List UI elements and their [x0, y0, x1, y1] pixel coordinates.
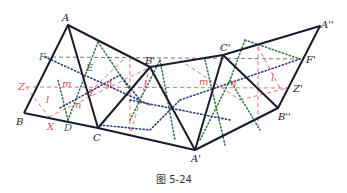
angle-n3: n — [230, 77, 236, 88]
label-C1: C' — [220, 42, 230, 53]
label-B2: B'' — [277, 111, 291, 122]
geometry-figure: A B C B' C' A'' F' Z' B'' A' F E D Z X Y… — [0, 0, 347, 193]
figure-caption: 图 5-24 — [156, 174, 192, 185]
dashed-black-lines — [45, 57, 300, 59]
label-F1: F' — [305, 54, 316, 65]
angle-l2: l — [144, 78, 147, 89]
angle-l3: l — [271, 72, 274, 83]
angle-m1: m — [62, 78, 71, 89]
angle-m2: m — [199, 76, 208, 87]
label-D: D — [63, 122, 72, 133]
angle-n2: n — [75, 99, 81, 110]
label-A2: A'' — [320, 19, 334, 30]
label-A1: A' — [190, 153, 201, 164]
label-B: B — [15, 116, 23, 127]
label-F: F — [38, 51, 47, 62]
label-Z: Z — [17, 81, 26, 92]
label-Z1: Z' — [292, 83, 303, 94]
label-C: C — [93, 132, 101, 143]
red-labels: Z X Y m n l n l m n l — [17, 72, 274, 132]
label-E: E — [85, 62, 94, 73]
label-A: A — [61, 12, 69, 23]
angle-n1: n — [106, 77, 112, 88]
label-B1: B' — [144, 55, 155, 66]
label-X: X — [46, 121, 55, 132]
angle-l1: l — [46, 94, 49, 105]
